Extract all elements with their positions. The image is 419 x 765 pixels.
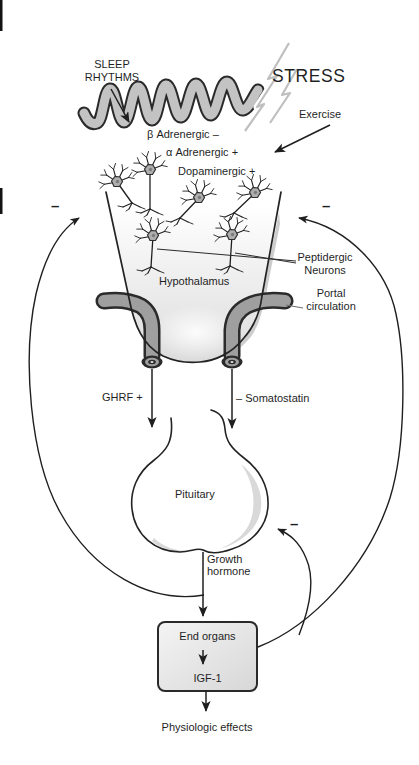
vessel-end-right [222,356,243,369]
pituitary-gland [132,410,268,553]
sleep-rhythms-label: SLEEP RHYTHMS [80,58,144,83]
pituitary-label: Pituitary [175,488,215,501]
alpha-adrenergic-label: α Adrenergic + [166,146,238,159]
vessel-end-left [142,356,163,369]
diagram-artwork [0,0,419,765]
growth-hormone-label: Growth hormone [207,554,250,577]
somatostatin-label: – Somatostatin [236,392,309,405]
end-organs-label: End organs [158,630,257,643]
minus-feedback-left: – [51,201,58,211]
portal-vessel-left [104,300,152,356]
portal-circulation-label: Portal circulation [305,287,357,312]
beta-adrenergic-label: β Adrenergic – [147,128,219,141]
exercise-label: Exercise [299,108,341,121]
minus-feedback-right: – [322,201,329,211]
gh-regulation-diagram: SLEEP RHYTHMS STRESS Exercise β Adrenerg… [0,0,419,765]
minus-feedback-pituitary: – [290,519,297,529]
physiologic-effects-label: Physiologic effects [157,721,257,734]
peptidergic-neurons-label: Peptidergic Neurons [294,251,356,276]
portal-vessel-right [232,300,285,356]
hypothalamus-label: Hypothalamus [159,275,229,288]
dopaminergic-label: Dopaminergic + [178,165,255,178]
feedback-loop-right-outer [258,218,403,647]
stress-label: STRESS [272,67,346,86]
scan-artifact [0,0,3,214]
exercise-arrow [275,125,330,152]
cortex-ribbon [84,82,258,124]
igf1-label: IGF-1 [158,672,257,685]
ghrf-label: GHRF + [102,391,143,404]
